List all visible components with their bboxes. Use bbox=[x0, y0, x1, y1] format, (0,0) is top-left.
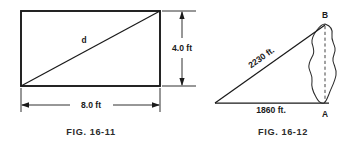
width-dimension-label: 8.0 ft bbox=[81, 100, 101, 110]
vertex-label-b: B bbox=[322, 10, 328, 20]
diagonal-line bbox=[21, 11, 160, 86]
hypotenuse-label: 2230 ft. bbox=[246, 45, 276, 70]
vertex-label-a: A bbox=[322, 109, 328, 119]
hypotenuse-line bbox=[215, 25, 325, 103]
height-arrowhead-top bbox=[179, 11, 184, 19]
lake-outline bbox=[309, 24, 336, 103]
figures-illustration: d 8.0 ft 4.0 ft FIG. 16-11 bbox=[0, 0, 359, 147]
figure-16-11-group: d 8.0 ft 4.0 ft FIG. 16-11 bbox=[21, 11, 196, 137]
figure-16-12-group: B A 2230 ft. 1860 ft. FIG. 16-12 bbox=[215, 10, 336, 137]
width-arrowhead-right bbox=[152, 102, 160, 107]
width-arrowhead-left bbox=[21, 102, 29, 107]
figure-16-12-caption: FIG. 16-12 bbox=[258, 127, 308, 137]
base-label: 1860 ft. bbox=[256, 105, 286, 115]
height-arrowhead-bottom bbox=[179, 78, 184, 86]
figure-16-11-caption: FIG. 16-11 bbox=[66, 127, 115, 137]
height-dimension-label: 4.0 ft bbox=[172, 43, 192, 53]
diagonal-label: d bbox=[81, 35, 86, 45]
